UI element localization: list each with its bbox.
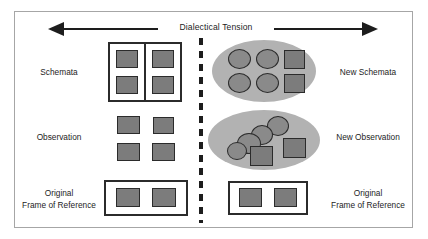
observation-square [117, 143, 140, 161]
label-new-schemata: New Schemata [326, 67, 410, 79]
label-frame-left-line1: Original [12, 188, 106, 200]
new-observation-square [250, 146, 273, 166]
observation-square [153, 117, 174, 134]
label-frame-right-line2: Frame of Reference [320, 200, 416, 212]
schemata-square [116, 76, 138, 94]
label-observation: Observation [18, 132, 100, 144]
diagram-canvas: Dialectical Tension Schemata Observation… [0, 0, 428, 239]
original-frame-right-square [239, 188, 262, 207]
original-frame-left-square [116, 188, 140, 207]
label-original-frame-right: Original Frame of Reference [320, 188, 416, 211]
label-frame-left-line2: Frame of Reference [12, 200, 106, 212]
new-schemata-circle [228, 49, 251, 69]
schemata-square [152, 76, 174, 94]
new-observation-circle [227, 142, 247, 160]
observation-square [152, 143, 175, 161]
diagram-title: Dialectical Tension [158, 20, 274, 34]
observation-square [117, 116, 140, 134]
label-schemata: Schemata [18, 67, 100, 79]
label-new-observation: New Observation [322, 132, 414, 144]
schemata-divider-line [144, 42, 146, 102]
new-schemata-circle [256, 73, 279, 93]
schemata-square [152, 50, 174, 68]
vertical-dashed-divider-icon [199, 38, 203, 223]
new-observation-square [283, 138, 306, 158]
new-schemata-circle [256, 49, 279, 69]
original-frame-right-square [274, 188, 297, 207]
new-schemata-square [284, 74, 305, 93]
label-frame-right-line1: Original [320, 188, 416, 200]
schemata-square [116, 50, 138, 68]
original-frame-left-square [152, 188, 176, 207]
label-original-frame-left: Original Frame of Reference [12, 188, 106, 211]
new-schemata-circle [228, 73, 251, 93]
new-schemata-square [284, 50, 305, 69]
